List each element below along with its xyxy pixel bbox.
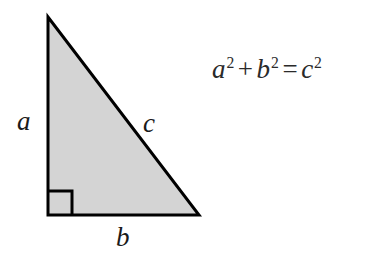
triangle-shape xyxy=(48,17,199,215)
equation-equals-operator: = xyxy=(279,54,301,84)
equation-term-b: b xyxy=(257,54,271,84)
equation-exponent-c: 2 xyxy=(314,54,323,71)
side-label-a: a xyxy=(17,108,31,135)
right-triangle-graphic xyxy=(0,0,372,262)
equation-term-a: a xyxy=(212,54,226,84)
side-label-c: c xyxy=(143,110,155,137)
equation-term-c: c xyxy=(301,54,313,84)
side-label-b: b xyxy=(116,224,130,251)
equation-exponent-a: 2 xyxy=(226,54,235,71)
equation-plus-operator: + xyxy=(235,54,257,84)
pythagorean-theorem-figure: a c b a2+b2=c2 xyxy=(0,0,372,262)
pythagorean-equation: a2+b2=c2 xyxy=(212,56,322,83)
